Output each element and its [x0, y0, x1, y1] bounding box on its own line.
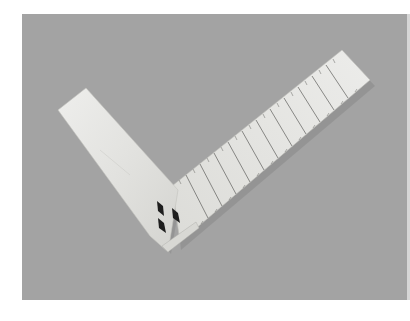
try-square-illustration	[0, 0, 410, 321]
blade	[172, 50, 370, 242]
